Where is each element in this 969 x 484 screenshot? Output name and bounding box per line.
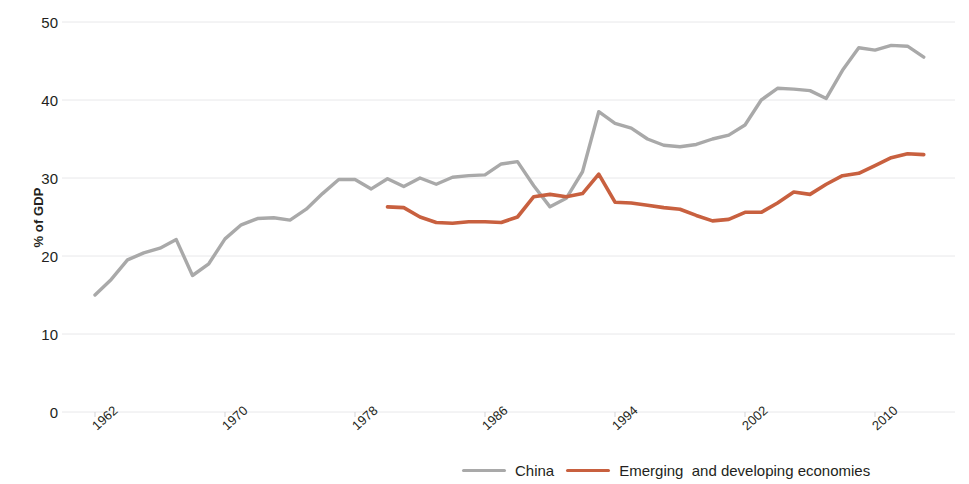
series-line-china: [95, 45, 924, 295]
line-chart: % of GDP 01020304050 1962197019781986199…: [0, 0, 969, 484]
legend-label: Emerging and developing economies: [619, 462, 870, 479]
series-line-emerging: [388, 154, 924, 223]
legend-swatch-icon: [566, 469, 610, 472]
chart-legend: ChinaEmerging and developing economies: [462, 462, 870, 479]
legend-label: China: [515, 462, 554, 479]
legend-swatch-icon: [462, 469, 506, 472]
legend-item-china[interactable]: China: [462, 462, 554, 479]
legend-item-emerging-economies[interactable]: Emerging and developing economies: [566, 462, 870, 479]
plot-area: [0, 0, 969, 484]
